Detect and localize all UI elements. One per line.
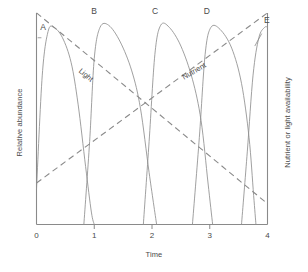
curve-C [143, 23, 212, 224]
curve-label-d: D [204, 6, 210, 16]
curve-E [242, 27, 268, 225]
dashed-line-Nutrient [37, 13, 268, 183]
y-axis-label-right: Nutrient or light availability [283, 63, 292, 183]
figure-container: Relative abundance Nutrient or light ava… [0, 0, 308, 272]
curve-label-b: B [91, 6, 97, 16]
curve-label-c: C [152, 6, 158, 16]
curve-label-a: A [40, 22, 46, 32]
x-tick-label: 1 [84, 231, 104, 240]
x-tick-label: 3 [200, 231, 220, 240]
curve-label-e: E [264, 15, 270, 25]
x-tick-label: 4 [258, 231, 278, 240]
dashed-line-Light [37, 13, 268, 204]
x-tick-label: 0 [27, 231, 47, 240]
x-axis-label: Time [0, 250, 308, 259]
y-axis-label-left: Relative abundance [15, 63, 24, 183]
leader-e [255, 34, 262, 46]
x-tick-label: 2 [142, 231, 162, 240]
